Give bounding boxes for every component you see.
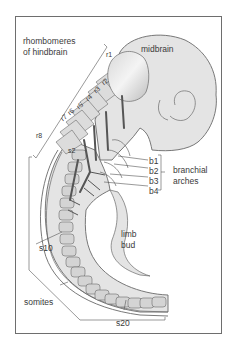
label-branchial: branchial xyxy=(173,165,208,175)
label-b2: b2 xyxy=(149,166,158,176)
label-s20: s20 xyxy=(116,318,130,328)
label-limb: limb xyxy=(121,229,137,239)
label-arches: arches xyxy=(173,176,199,186)
label-b4: b4 xyxy=(149,186,158,196)
label-r8: r8 xyxy=(36,131,42,141)
label-bud: bud xyxy=(121,240,135,250)
label-midbrain: midbrain xyxy=(141,44,174,54)
midbrain-bulge xyxy=(108,51,149,101)
label-of-hindbrain: of hindbrain xyxy=(23,47,67,57)
label-b1: b1 xyxy=(149,156,158,166)
label-s2: s2 xyxy=(68,146,75,156)
label-r1: r1 xyxy=(106,50,112,60)
label-b3: b3 xyxy=(149,176,158,186)
label-s10: s10 xyxy=(39,243,53,253)
label-somites: somites xyxy=(24,297,53,307)
label-rhombomeres: rhombomeres xyxy=(23,36,75,46)
